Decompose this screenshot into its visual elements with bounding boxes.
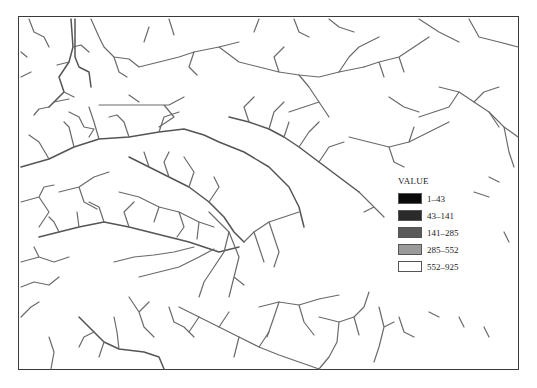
legend-label: 141–285 bbox=[427, 228, 459, 238]
legend-title: VALUE bbox=[398, 176, 498, 186]
legend-swatch bbox=[398, 193, 422, 204]
legend-swatch bbox=[398, 261, 422, 272]
legend-item: 1–43 bbox=[398, 190, 498, 207]
legend-label: 285–552 bbox=[427, 245, 459, 255]
legend-item: 552–925 bbox=[398, 258, 498, 275]
legend-swatch bbox=[398, 244, 422, 255]
legend-item: 285–552 bbox=[398, 241, 498, 258]
legend-item: 141–285 bbox=[398, 224, 498, 241]
legend-label: 552–925 bbox=[427, 262, 459, 272]
legend-swatch bbox=[398, 227, 422, 238]
legend-item: 43–141 bbox=[398, 207, 498, 224]
legend-label: 43–141 bbox=[427, 211, 454, 221]
legend-swatch bbox=[398, 210, 422, 221]
legend-label: 1–43 bbox=[427, 194, 445, 204]
map-legend: VALUE 1–43 43–141 141–285 285–552 552–92… bbox=[398, 176, 498, 275]
